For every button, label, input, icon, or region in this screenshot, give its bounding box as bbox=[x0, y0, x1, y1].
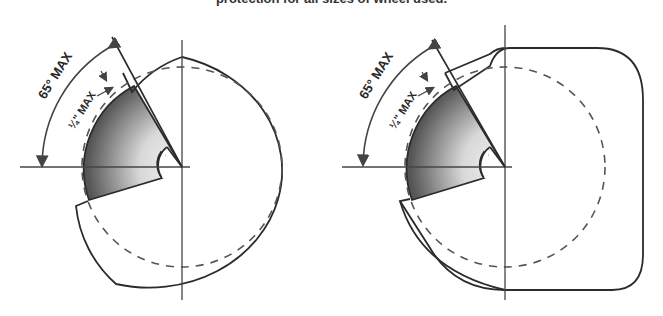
diagram-square-guard: 65° MAX ¼" MAX bbox=[342, 25, 643, 300]
guard-diagrams: 65° MAX ¼" MAX 65° MAX ¼" MAX bbox=[0, 0, 663, 316]
wheel-segment bbox=[407, 86, 505, 200]
angle-label: 65° MAX bbox=[35, 49, 76, 101]
angle-label: 65° MAX bbox=[356, 49, 397, 101]
gap-label: ¼" MAX bbox=[387, 89, 420, 131]
diagram-round-guard: 65° MAX ¼" MAX bbox=[20, 37, 282, 300]
